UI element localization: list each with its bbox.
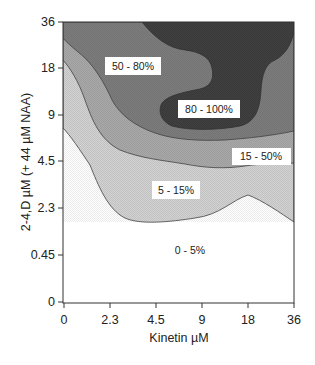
y-tick-label: 4.5 <box>38 154 55 168</box>
y-tick-label: 0.45 <box>31 248 55 262</box>
label-5-15: 5 - 15% <box>158 184 194 196</box>
x-tick-label: 2.3 <box>101 313 118 327</box>
label-15-50: 15 - 50% <box>240 150 282 162</box>
y-axis <box>58 22 63 302</box>
x-tick-label: 0 <box>61 313 68 327</box>
x-axis <box>64 303 294 308</box>
y-tick-label: 0 <box>48 295 55 309</box>
x-tick-label: 9 <box>199 313 206 327</box>
y-tick-label: 36 <box>41 15 55 29</box>
x-axis-title: Kinetin µM <box>149 331 208 345</box>
label-80-100: 80 - 100% <box>185 103 233 115</box>
x-tick-label: 4.5 <box>147 313 164 327</box>
y-axis-title: 2-4,D µM (+ 44 µM NAA) <box>19 93 33 231</box>
y-tick-label: 9 <box>48 108 55 122</box>
contour-chart: 36 18 9 4.5 2.3 0.45 0 0 2.3 4.5 9 18 36… <box>0 0 315 365</box>
label-0-5: 0 - 5% <box>175 244 205 256</box>
label-50-80: 50 - 80% <box>112 60 154 72</box>
y-tick-label: 18 <box>41 61 55 75</box>
y-tick-label: 2.3 <box>38 201 55 215</box>
x-tick-label: 36 <box>287 313 301 327</box>
x-tick-label: 18 <box>241 313 255 327</box>
